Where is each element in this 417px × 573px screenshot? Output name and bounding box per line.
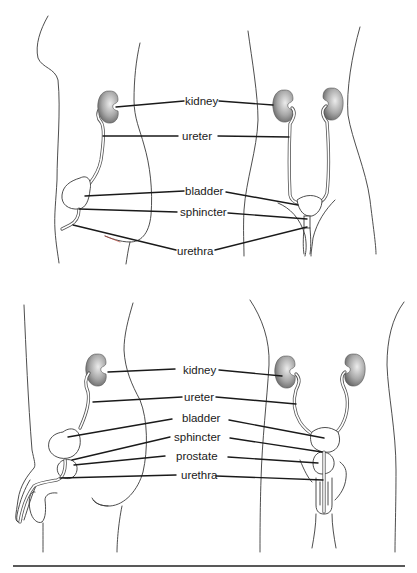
urinary-system-diagram: kidney ureter bladder sphincter urethra [0, 0, 417, 573]
label-bladder: bladder [182, 412, 221, 424]
label-urethra: urethra [181, 469, 218, 481]
male-labels: kidney ureter bladder sphincter prostate… [174, 364, 221, 481]
female-front-body-outline [244, 27, 376, 256]
label-sphincter: sphincter [174, 431, 221, 443]
kidney-shape [86, 354, 106, 386]
female-leader-lines [73, 101, 307, 250]
label-prostate: prostate [176, 450, 218, 462]
label-kidney: kidney [183, 364, 216, 376]
kidney-shape [273, 90, 293, 122]
label-bladder: bladder [185, 185, 224, 197]
label-kidney: kidney [185, 95, 218, 107]
kidney-shape [323, 88, 343, 120]
male-panel: kidney ureter bladder sphincter prostate… [16, 300, 404, 552]
label-ureter: ureter [184, 391, 214, 403]
kidney-shape [345, 354, 365, 386]
label-sphincter: sphincter [180, 206, 227, 218]
male-front-body-outline [250, 300, 404, 552]
female-labels: kidney ureter bladder sphincter urethra [177, 95, 227, 257]
label-ureter: ureter [182, 130, 212, 142]
label-urethra: urethra [177, 245, 214, 257]
female-side-body-outline [37, 16, 151, 264]
kidney-shape [98, 91, 118, 123]
kidney-shape [275, 356, 295, 388]
female-panel: kidney ureter bladder sphincter urethra [37, 16, 376, 264]
